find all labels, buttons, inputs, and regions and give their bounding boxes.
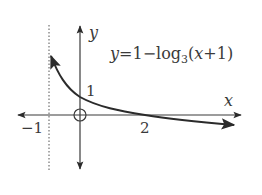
eq-base: 3 [181, 53, 188, 66]
function-graph: y x −1 1 2 y=1−log3(x+1) [0, 0, 262, 195]
tick-label-neg-one: −1 [21, 119, 43, 137]
eq-one-2: 1 [217, 44, 227, 63]
x-axis-label: x [224, 91, 233, 110]
equation-label: y=1−log3(x+1) [109, 44, 233, 66]
eq-x: x [194, 44, 203, 63]
graph-canvas: y x −1 1 2 y=1−log3(x+1) [0, 0, 262, 195]
y-axis-label: y [88, 23, 99, 42]
eq-plus: + [203, 44, 216, 63]
tick-label-x-intercept: 2 [140, 119, 150, 137]
eq-close-paren: ) [227, 44, 233, 63]
eq-minus: − [143, 44, 156, 63]
tick-label-y-intercept: 1 [86, 82, 96, 100]
eq-log: log [156, 44, 181, 63]
eq-equals: = [119, 44, 132, 63]
eq-one: 1 [132, 44, 142, 63]
